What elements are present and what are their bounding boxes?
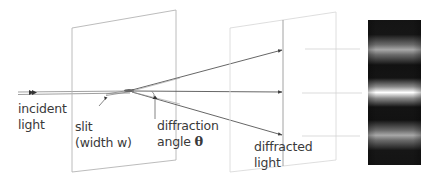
central-ray [132,91,282,92]
angle-marker [152,92,158,120]
diffraction-fringe-pattern [368,20,421,165]
slit-pointer [99,97,108,107]
diffracted-light-label: diffracted light [254,139,312,171]
diffraction-diagram: incident light slit (width w) diffractio… [0,0,441,182]
diffraction-angle-label: diffraction angle θ [157,118,219,150]
slit-opening [106,89,134,96]
incident-light-label: incident light [18,101,67,133]
upper-diffracted-ray [132,50,282,90]
fringe-guide-lines [302,49,362,136]
slit-label: slit (width w) [75,119,132,151]
theta-symbol: θ [194,134,202,149]
